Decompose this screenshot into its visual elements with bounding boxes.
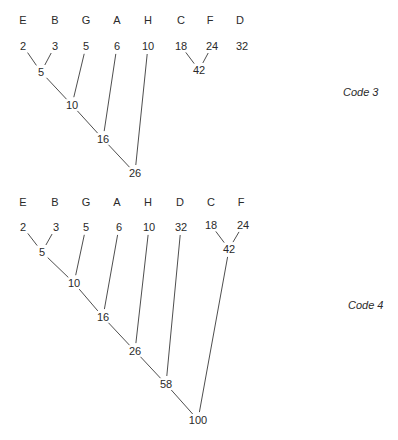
code-4-tree: EBGAHDCF 23561032182451016265842100 Code… [19,196,383,426]
node-weight: 42 [223,243,235,255]
code-3-edges [28,52,209,167]
symbol-label: A [113,14,121,26]
node-weight: 5 [38,66,44,78]
symbol-label: G [82,196,91,208]
symbol-label: F [238,196,245,208]
symbol-label: H [144,14,152,26]
tree-edge [186,52,194,63]
code-3-nodes: 235610182432510162642 [20,40,248,179]
symbol-label: F [207,14,214,26]
code-3-tree: EBGAHCFD 235610182432510162642 Code 3 [19,14,379,179]
code-4-symbols: EBGAHDCF [19,196,244,208]
node-weight: 26 [129,345,141,357]
tree-edge [141,357,161,378]
tree-edge [167,235,180,376]
symbol-label: D [236,14,244,26]
tree-edge [136,235,148,343]
node-weight: 5 [83,221,89,233]
tree-edge [203,53,208,63]
node-weight: 18 [205,219,217,231]
tree-edge [45,53,51,65]
code-3-symbols: EBGAHCFD [19,14,244,26]
node-weight: 42 [193,64,205,76]
symbol-label: E [19,196,26,208]
node-weight: 3 [52,40,58,52]
tree-edge [109,145,130,167]
tree-edge [171,390,192,414]
tree-edge [104,235,117,309]
tree-edge [76,235,85,275]
node-weight: 5 [83,40,89,52]
node-weight: 24 [237,219,249,231]
node-weight: 16 [97,133,109,145]
symbol-label: E [19,14,26,26]
symbol-label: C [177,14,185,26]
node-weight: 18 [175,40,187,52]
node-weight: 10 [142,40,154,52]
code-4-nodes: 23561032182451016265842100 [20,219,249,426]
symbol-label: H [144,196,152,208]
symbol-label: C [207,196,215,208]
tree-edge [48,258,69,278]
tree-edge [199,257,227,412]
symbol-label: D [176,196,184,208]
tree-edge [28,53,37,66]
tree-edge [74,54,84,97]
symbol-label: B [51,196,58,208]
node-weight: 3 [53,221,59,233]
node-weight: 6 [114,40,120,52]
tree-edge [109,323,130,345]
tree-edge [136,54,147,165]
node-weight: 10 [143,221,155,233]
tree-edge [46,234,52,245]
tree-edge [233,232,239,242]
node-weight: 6 [116,221,122,233]
tree-edge [77,111,97,133]
code-4-edges [28,231,239,414]
huffman-trees-diagram: EBGAHCFD 235610182432510162642 Code 3 EB… [0,0,398,440]
symbol-label: A [113,196,121,208]
tree-edge [216,231,224,242]
code-4-caption: Code 4 [348,299,383,311]
node-weight: 10 [68,277,80,289]
node-weight: 32 [236,40,248,52]
node-weight: 24 [206,40,218,52]
code-3-caption: Code 3 [343,86,379,98]
node-weight: 26 [129,167,141,179]
tree-edge [28,233,37,245]
symbol-label: B [51,14,58,26]
node-weight: 58 [160,378,172,390]
node-weight: 32 [175,221,187,233]
tree-edge [79,289,98,311]
tree-edge [47,78,67,99]
node-weight: 16 [97,311,109,323]
tree-edge [104,54,116,131]
node-weight: 2 [20,221,26,233]
node-weight: 10 [66,99,78,111]
node-weight: 5 [39,246,45,258]
node-weight: 100 [189,414,207,426]
symbol-label: G [82,14,91,26]
node-weight: 2 [20,40,26,52]
